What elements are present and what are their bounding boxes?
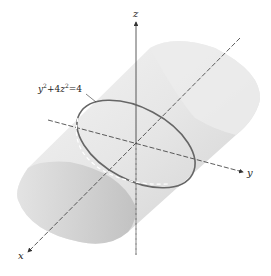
x-axis-label: x (18, 250, 24, 261)
equation-label: y2+4z2=4 (37, 82, 82, 94)
equation-leader-line (86, 94, 96, 102)
elliptic-cylinder-diagram: z y x y2+4z2=4 (0, 0, 271, 276)
y-axis-label: y (246, 167, 253, 178)
z-axis-label: z (132, 8, 139, 19)
